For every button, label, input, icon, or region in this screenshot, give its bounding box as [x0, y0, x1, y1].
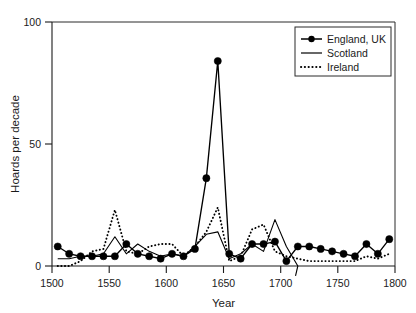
data-point-england [271, 238, 278, 245]
data-point-england [146, 253, 153, 260]
x-tick-label-1800: 1800 [383, 277, 407, 289]
legend-label-ireland: Ireland [327, 61, 359, 73]
y-axis-title: Hoards per decade [9, 95, 21, 193]
data-point-england [294, 243, 301, 250]
series-line-scotland [58, 220, 298, 276]
data-point-england [157, 255, 164, 262]
x-tick-label-1600: 1600 [155, 277, 179, 289]
data-point-england [340, 250, 347, 257]
data-point-england [317, 245, 324, 252]
data-point-england [54, 243, 61, 250]
data-point-england [306, 243, 313, 250]
data-point-england [168, 250, 175, 257]
data-point-england [66, 250, 73, 257]
data-point-england [111, 253, 118, 260]
data-point-england [374, 250, 381, 257]
legend: England, UK Scotland Ireland [295, 27, 391, 76]
data-point-england [329, 248, 336, 255]
legend-label-england: England, UK [327, 33, 386, 45]
data-point-england [134, 250, 141, 257]
data-point-england [88, 253, 95, 260]
x-axis-title: Year [212, 297, 235, 309]
data-point-england [214, 57, 221, 64]
legend-label-scotland: Scotland [327, 47, 368, 59]
chart-figure: 0 50 100 1500 1550 1600 1650 1700 1750 1… [0, 0, 416, 313]
x-tick-label-1750: 1750 [326, 277, 350, 289]
x-tick-label-1650: 1650 [212, 277, 236, 289]
data-series-group [54, 57, 393, 275]
y-tick-label-100: 100 [23, 16, 41, 28]
series-line-ireland [58, 207, 390, 266]
y-tick-label-0: 0 [35, 260, 41, 272]
x-tick-label-1550: 1550 [98, 277, 122, 289]
data-point-england [100, 253, 107, 260]
data-point-england [226, 250, 233, 257]
x-tick-label-1700: 1700 [269, 277, 293, 289]
data-point-england [351, 253, 358, 260]
data-point-england [77, 253, 84, 260]
data-point-england [283, 258, 290, 265]
data-point-england [191, 245, 198, 252]
x-tick-label-1500: 1500 [40, 277, 64, 289]
data-point-england [260, 240, 267, 247]
data-point-england [237, 255, 244, 262]
y-tick-label-50: 50 [29, 138, 41, 150]
y-axis-ticks: 0 50 100 [23, 16, 52, 272]
hoards-per-decade-line-chart: 0 50 100 1500 1550 1600 1650 1700 1750 1… [0, 0, 416, 313]
data-point-england [363, 240, 370, 247]
data-point-england [123, 240, 130, 247]
data-point-england [203, 175, 210, 182]
data-point-england [386, 236, 393, 243]
x-axis-ticks: 1500 1550 1600 1650 1700 1750 1800 [40, 266, 407, 289]
legend-sample-marker-england [308, 36, 314, 42]
data-point-england [180, 253, 187, 260]
data-point-england [248, 240, 255, 247]
